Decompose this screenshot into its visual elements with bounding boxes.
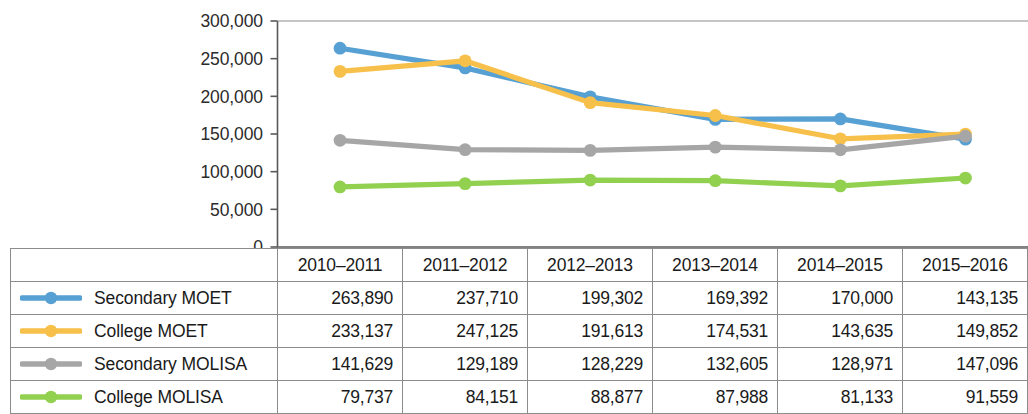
series-line-2 bbox=[340, 61, 965, 139]
y-axis-tick-label: 300,000 bbox=[200, 11, 263, 31]
series-data-point bbox=[709, 141, 722, 154]
series-data-point bbox=[834, 132, 847, 145]
table-cell-value: 87,988 bbox=[653, 381, 778, 414]
series-data-point bbox=[334, 134, 347, 147]
y-axis-tick-label: 50,000 bbox=[210, 200, 263, 220]
series-data-point bbox=[834, 143, 847, 156]
series-data-point bbox=[334, 181, 347, 194]
table-cell-value: 128,229 bbox=[528, 348, 653, 381]
y-axis-tick-label: 200,000 bbox=[200, 87, 263, 107]
column-header-year: 2015–2016 bbox=[903, 249, 1028, 282]
data-table: 2010–20112011–20122012–20132013–20142014… bbox=[10, 248, 1028, 414]
series-data-point bbox=[959, 130, 972, 143]
series-data-point bbox=[334, 42, 347, 55]
table-cell-value: 170,000 bbox=[778, 282, 903, 315]
table-row: Secondary MOLISA141,629129,189128,229132… bbox=[11, 348, 1028, 381]
series-data-point bbox=[334, 65, 347, 78]
table-cell-value: 143,135 bbox=[903, 282, 1028, 315]
table-cell-value: 128,971 bbox=[778, 348, 903, 381]
y-axis-tick-label: 250,000 bbox=[200, 49, 263, 69]
legend-cell: College MOET bbox=[11, 315, 278, 348]
legend-series-marker-icon bbox=[20, 288, 82, 308]
table-row: College MOET233,137247,125191,613174,531… bbox=[11, 315, 1028, 348]
column-header-year: 2013–2014 bbox=[653, 249, 778, 282]
table-corner-cell bbox=[11, 249, 278, 282]
table-cell-value: 132,605 bbox=[653, 348, 778, 381]
table-cell-value: 147,096 bbox=[903, 348, 1028, 381]
table-cell-value: 79,737 bbox=[278, 381, 403, 414]
legend-cell: Secondary MOLISA bbox=[11, 348, 278, 381]
column-header-year: 2010–2011 bbox=[278, 249, 403, 282]
table-cell-value: 129,189 bbox=[403, 348, 528, 381]
series-data-point bbox=[584, 96, 597, 109]
table-cell-value: 81,133 bbox=[778, 381, 903, 414]
legend-series-marker-icon bbox=[20, 321, 82, 341]
legend-series-label: College MOET bbox=[94, 321, 208, 342]
legend-series-label: Secondary MOLISA bbox=[94, 354, 247, 375]
table-cell-value: 174,531 bbox=[653, 315, 778, 348]
table-header-row: 2010–20112011–20122012–20132013–20142014… bbox=[11, 249, 1028, 282]
series-data-point bbox=[834, 179, 847, 192]
series-data-point bbox=[709, 109, 722, 122]
table-cell-value: 233,137 bbox=[278, 315, 403, 348]
column-header-year: 2012–2013 bbox=[528, 249, 653, 282]
table-row: Secondary MOET263,890237,710199,302169,3… bbox=[11, 282, 1028, 315]
series-data-point bbox=[459, 143, 472, 156]
series-group bbox=[334, 42, 972, 146]
table-cell-value: 237,710 bbox=[403, 282, 528, 315]
line-chart: 300,000250,000200,000150,000100,00050,00… bbox=[0, 0, 1028, 250]
legend-cell: Secondary MOET bbox=[11, 282, 278, 315]
table-cell-value: 191,613 bbox=[528, 315, 653, 348]
series-data-point bbox=[959, 172, 972, 185]
y-axis-tick-label: 100,000 bbox=[200, 162, 263, 182]
table-cell-value: 199,302 bbox=[528, 282, 653, 315]
series-data-point bbox=[584, 144, 597, 157]
series-group bbox=[334, 172, 972, 194]
legend-series-marker-icon bbox=[20, 354, 82, 374]
legend-series-label: Secondary MOET bbox=[94, 288, 232, 309]
series-group bbox=[334, 54, 972, 145]
y-axis-tick-label: 150,000 bbox=[200, 124, 263, 144]
table-row: College MOLISA79,73784,15188,87787,98881… bbox=[11, 381, 1028, 414]
series-data-point bbox=[834, 113, 847, 126]
table-cell-value: 141,629 bbox=[278, 348, 403, 381]
table-cell-value: 149,852 bbox=[903, 315, 1028, 348]
line-chart-canvas: 300,000250,000200,000150,000100,00050,00… bbox=[0, 0, 1028, 250]
table-cell-value: 91,559 bbox=[903, 381, 1028, 414]
series-data-point bbox=[709, 174, 722, 187]
series-group bbox=[334, 130, 972, 157]
series-data-point bbox=[584, 174, 597, 187]
table-cell-value: 263,890 bbox=[278, 282, 403, 315]
column-header-year: 2011–2012 bbox=[403, 249, 528, 282]
table-cell-value: 143,635 bbox=[778, 315, 903, 348]
series-data-point bbox=[459, 177, 472, 190]
table-cell-value: 247,125 bbox=[403, 315, 528, 348]
series-data-point bbox=[459, 54, 472, 67]
series-line-4 bbox=[340, 178, 965, 187]
data-table-container: 2010–20112011–20122012–20132013–20142014… bbox=[10, 248, 1028, 414]
legend-series-marker-icon bbox=[20, 387, 82, 407]
column-header-year: 2014–2015 bbox=[778, 249, 903, 282]
table-cell-value: 84,151 bbox=[403, 381, 528, 414]
legend-series-label: College MOLISA bbox=[94, 387, 223, 408]
table-cell-value: 88,877 bbox=[528, 381, 653, 414]
table-cell-value: 169,392 bbox=[653, 282, 778, 315]
legend-cell: College MOLISA bbox=[11, 381, 278, 414]
